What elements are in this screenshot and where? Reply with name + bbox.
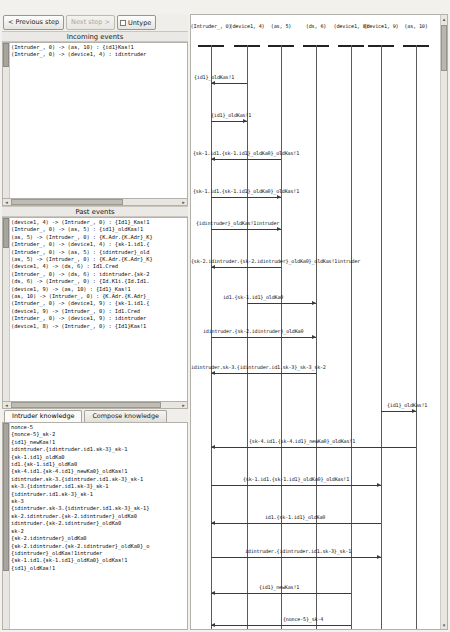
message-label: {sk-1.id1.{sk-1.id1}_oldKa0}_oldKas!1	[193, 150, 299, 156]
list-item[interactable]: (Intruder_, 0) -> (device1, 4) : idintru…	[11, 51, 187, 58]
list-item[interactable]: (as, 10) -> (Intruder_, 0) : {K.Adr.{K.A…	[11, 293, 187, 300]
scroll-thumb[interactable]	[3, 43, 9, 67]
list-item[interactable]: sk-2	[11, 528, 187, 535]
list-item[interactable]: {sk-2.idintruder}_oldKa0	[11, 535, 187, 542]
message-arrow	[211, 373, 316, 374]
message-label: id1.{sk-1.id1}_oldKa0	[223, 294, 283, 300]
knowledge-tabs: Intruder knowledge Compose knowledge	[2, 409, 188, 422]
list-item[interactable]: sk-2.idintruder.{sk-2.idintruder}_oldKa0	[11, 513, 187, 520]
incoming-events-vscrollbar[interactable]	[3, 43, 10, 198]
message-label: idintruder.{idintruder.id1.sk-3}_sk-1	[245, 548, 351, 554]
scroll-thumb[interactable]	[11, 199, 123, 205]
tab-compose-knowledge[interactable]: Compose knowledge	[84, 410, 167, 422]
scroll-up-icon[interactable]: ▴	[441, 16, 447, 22]
scroll-thumb[interactable]	[441, 25, 447, 71]
next-step-button[interactable]: Next step >	[66, 15, 115, 30]
message-arrowhead	[211, 591, 215, 595]
message-arrow	[211, 557, 381, 558]
message-arrowhead	[211, 81, 215, 85]
scroll-right-icon[interactable]: ▸	[180, 199, 187, 205]
message-arrow	[211, 267, 281, 268]
list-item[interactable]: {idintruder}_oldKas!1intruder	[11, 550, 187, 557]
list-item[interactable]: (Intruder_, 0) -> (as, 5) : {id1}_oldKas…	[11, 226, 187, 233]
message-arrow	[211, 197, 281, 198]
intruder-knowledge-list[interactable]: nonce-5{nonce-5}_sk-2{id1}_newKas!1idint…	[2, 422, 188, 630]
message-label: {sk-1.id1.{sk-1.id1}_oldKa0}_oldKas!1	[193, 188, 299, 194]
list-item[interactable]: (Intruder_, 0) -> (device1, 9) : {sk-1.i…	[11, 300, 187, 307]
sequence-diagram-pane[interactable]: (Intruder_, 0)(device1, 4)(as, 5)(ds, 6)…	[190, 14, 448, 630]
message-arrow	[211, 121, 247, 122]
scroll-thumb[interactable]	[3, 218, 9, 248]
message-arrow	[211, 523, 381, 524]
list-item[interactable]: {id1}_newKas!1	[11, 439, 187, 446]
past-events-hscrollbar[interactable]: ◂ ▸	[2, 402, 188, 409]
list-item[interactable]: sk-3	[11, 498, 187, 505]
message-arrow	[211, 83, 247, 84]
list-item[interactable]: {sk-4.id1.{sk-4.id1}_newKa0}_oldKas!1	[11, 468, 187, 475]
message-arrowhead	[377, 483, 381, 487]
scroll-thumb[interactable]	[3, 423, 9, 571]
list-item[interactable]: {nonce-5}_sk-2	[11, 431, 187, 438]
scroll-left-icon[interactable]: ◂	[3, 199, 10, 205]
message-label: {sk-4.id1.{sk-4.id1}_newKa0}_oldKas!1	[249, 438, 355, 444]
message-arrow	[381, 411, 416, 412]
list-item[interactable]: (device1, 4) -> (Intruder_, 0) : {Id1}_K…	[11, 219, 187, 226]
diagram-vscrollbar[interactable]: ▴ ▾	[440, 15, 447, 629]
incoming-events-hscrollbar[interactable]: ◂ ▸	[2, 199, 188, 206]
list-item[interactable]: (device1, 8) -> (Intruder_, 0) : {Id1}Ka…	[11, 323, 187, 330]
scroll-down-icon[interactable]: ▾	[441, 622, 447, 628]
list-item[interactable]: (device1, 9) -> (Intruder_, 0) : Id1.Cre…	[11, 308, 187, 315]
list-item[interactable]: id1.{sk-1.id1}_oldKa0	[11, 461, 187, 468]
list-item[interactable]: (Intruder_, 0) -> (device1, 9) : idintru…	[11, 315, 187, 322]
message-label: {id1}_oldKas!1	[211, 112, 251, 118]
list-item[interactable]: {idintruder.id1.sk-3}_sk-1	[11, 491, 187, 498]
incoming-events-title: Incoming events	[2, 31, 188, 42]
message-arrow	[211, 593, 351, 594]
knowledge-vscrollbar[interactable]	[3, 423, 10, 629]
list-item[interactable]: (Intruder_, 0) -> (device1, 4) : {sk-1.i…	[11, 241, 187, 248]
list-item[interactable]: {idintruder.sk-3.{idintruder.id1.sk-3}_s…	[11, 505, 187, 512]
list-item[interactable]: idintruder.{sk-2.idintruder}_oldKa0	[11, 520, 187, 527]
past-events-list[interactable]: (device1, 4) -> (Intruder_, 0) : {Id1}_K…	[2, 217, 188, 402]
previous-step-button[interactable]: < Previous step	[3, 15, 64, 30]
list-item[interactable]: (device1, 9) -> (as, 10) : {Id1}_Kas!1	[11, 286, 187, 293]
scroll-thumb[interactable]	[11, 402, 161, 408]
list-item[interactable]: idintruder.sk-3.{idintruder.id1.sk-3}_sk…	[11, 476, 187, 483]
past-events-rows: (device1, 4) -> (Intruder_, 0) : {Id1}_K…	[10, 218, 187, 401]
list-item[interactable]: (Intruder_, 0) -> (as, 10) : {id1}Kas!1	[11, 44, 187, 51]
list-item[interactable]: {sk-2.idintruder.{sk-2.idintruder}_oldKa…	[11, 543, 187, 550]
message-arrow	[211, 625, 351, 626]
past-events-vscrollbar[interactable]	[3, 218, 10, 401]
list-item[interactable]: {sk-1.id1.{sk-1.id1}_oldKa0}_oldKas!1	[11, 557, 187, 564]
message-arrowhead	[377, 555, 381, 559]
list-item[interactable]: (as, 5) -> (Intruder_, 0) : {K.Adr.{K.Ad…	[11, 256, 187, 263]
list-item[interactable]: {id1}_oldKas!1	[11, 565, 187, 572]
list-item[interactable]: nonce-5	[11, 424, 187, 431]
message-label: {sk-2.idintruder.{sk-2.idintruder}_oldKa…	[191, 258, 360, 264]
scroll-left-icon[interactable]: ◂	[3, 402, 10, 408]
untype-checkbox[interactable]: Untype	[117, 15, 156, 30]
message-arrowhead	[211, 371, 215, 375]
tab-intruder-knowledge[interactable]: Intruder knowledge	[4, 410, 82, 422]
lifeline-label: (as, 10)	[388, 23, 444, 30]
list-item[interactable]: (device1, 4) -> (ds, 6) : Id1.Cred	[11, 263, 187, 270]
lifeline-axis	[316, 45, 317, 629]
sequence-diagram-canvas: (Intruder_, 0)(device1, 4)(as, 5)(ds, 6)…	[191, 15, 442, 630]
list-item[interactable]: sk-3.{idintruder.id1.sk-3}_sk-1	[11, 483, 187, 490]
past-events-panel: Past events (device1, 4) -> (Intruder_, …	[2, 206, 188, 409]
incoming-events-list[interactable]: (Intruder_, 0) -> (as, 10) : {id1}Kas!1(…	[2, 42, 188, 199]
intruder-knowledge-panel: nonce-5{nonce-5}_sk-2{id1}_newKas!1idint…	[2, 422, 188, 630]
list-item[interactable]: {sk-1.id1}_oldKa0	[11, 454, 187, 461]
lifeline-axis	[351, 45, 352, 629]
incoming-events-rows: (Intruder_, 0) -> (as, 10) : {id1}Kas!1(…	[10, 43, 187, 198]
message-arrow	[247, 303, 316, 304]
scroll-right-icon[interactable]: ▸	[180, 402, 187, 408]
list-item[interactable]: (Intruder_, 0) -> (ds, 6) : idintruder.{…	[11, 271, 187, 278]
message-label: idintruder.sk-3.{idintruder.id1.sk-3}_sk…	[191, 364, 326, 370]
list-item[interactable]: idintruder.{idintruder.id1.sk-3}_sk-1	[11, 446, 187, 453]
list-item[interactable]: (as, 5) -> (Intruder_, 0) : {K.Adr.{K.Ad…	[11, 234, 187, 241]
message-label: {id1}_oldKas!1	[194, 74, 234, 80]
list-item[interactable]: (Intruder_, 0) -> (as, 5) : {idintruder}…	[11, 249, 187, 256]
message-arrow	[211, 337, 316, 338]
list-item[interactable]: (ds, 6) -> (Intruder_, 0) : {Id.K1i.{Id.…	[11, 278, 187, 285]
